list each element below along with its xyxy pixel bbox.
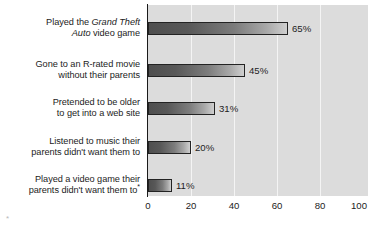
label-text: Listened to music their <box>49 136 140 146</box>
label-text: Played a video game their <box>35 174 140 184</box>
x-tick-80: 80 <box>315 200 326 211</box>
category-label-video-game-parents: Played a video game their parents didn't… <box>0 174 140 196</box>
value-label-grand-theft-auto: 65% <box>292 23 311 34</box>
x-tick-100: 100 <box>351 200 367 211</box>
category-label-r-rated-movie: Gone to an R-rated movie without their p… <box>0 59 140 81</box>
label-text-2: parents didn't want them to <box>31 147 140 157</box>
label-text-italic-2: Auto <box>72 28 91 38</box>
category-label-pretended-older: Pretended to be older to get into a web … <box>0 97 140 119</box>
label-text-2: without their parents <box>58 70 140 80</box>
label-text: Pretended to be older <box>53 97 140 107</box>
value-label-listened-music: 20% <box>195 142 214 153</box>
label-text-2: to get into a web site <box>57 108 140 118</box>
bar-pretended-older <box>148 102 215 115</box>
x-tick-20: 20 <box>186 200 197 211</box>
category-label-listened-music: Listened to music their parents didn't w… <box>0 136 140 158</box>
label-text-italic: Grand Theft <box>92 17 140 27</box>
x-tick-60: 60 <box>272 200 283 211</box>
bar-listened-music <box>148 141 191 154</box>
label-text: Played the <box>46 17 91 27</box>
value-label-video-game-parents: 11% <box>176 180 195 191</box>
label-text: Gone to an R-rated movie <box>35 59 140 69</box>
category-label-grand-theft-auto: Played the Grand Theft Auto video game <box>0 17 140 39</box>
value-label-pretended-older: 31% <box>219 103 238 114</box>
x-tick-40: 40 <box>229 200 240 211</box>
x-tick-0: 0 <box>145 200 150 211</box>
category-label-group: Played the Grand Theft Auto video game G… <box>0 0 144 196</box>
bar-grand-theft-auto <box>148 22 288 35</box>
bar-r-rated-movie <box>148 64 245 77</box>
gridline-80 <box>320 5 321 196</box>
plot-area-right-margin <box>363 5 368 196</box>
footnote-asterisk: * <box>6 214 9 223</box>
footnote-marker: * <box>137 183 140 190</box>
bar-chart: Played the Grand Theft Auto video game G… <box>0 0 371 226</box>
label-text-2: parents didn't want them to <box>29 185 138 195</box>
value-label-r-rated-movie: 45% <box>249 65 268 76</box>
label-text-2: video game <box>90 28 140 38</box>
bar-video-game-parents <box>148 179 172 192</box>
